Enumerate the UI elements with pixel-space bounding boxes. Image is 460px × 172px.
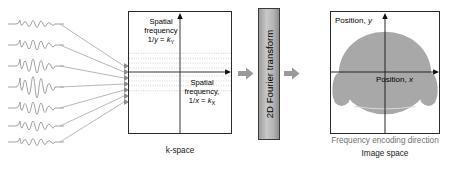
image-y-arrowhead xyxy=(382,13,387,19)
converging-line-5 xyxy=(60,90,124,108)
waveform-4 xyxy=(8,77,64,99)
position-y-label: Position, y xyxy=(335,16,372,25)
position-x-text: Position, xyxy=(376,75,409,84)
arrow-right-icon-right xyxy=(284,67,300,80)
kspace-kx-subscript: X xyxy=(211,100,215,106)
converging-line-4 xyxy=(60,84,124,87)
kspace-ky-eq: = xyxy=(158,35,167,44)
kspace-ky-subscript: Y xyxy=(170,39,174,45)
kspace-kx-line2: frequency, xyxy=(185,87,220,96)
image-space-caption: Image space xyxy=(330,149,440,158)
waveform-5 xyxy=(8,102,64,115)
waveform-1 xyxy=(8,20,64,28)
kspace-caption: k-space xyxy=(128,146,232,155)
image-x-arrowhead xyxy=(433,69,439,75)
kspace-ky-line1: Spatial xyxy=(149,17,172,26)
diagram-canvas: Spatial frequency 1/y = kY Spatial frequ… xyxy=(0,0,460,172)
position-x-var: x xyxy=(409,75,413,84)
waveform-7 xyxy=(8,138,64,146)
waveform-6 xyxy=(8,121,64,131)
position-y-text: Position, xyxy=(335,16,368,25)
kspace-ky-label: Spatial frequency 1/y = kY xyxy=(133,17,189,47)
converging-line-1 xyxy=(60,24,124,66)
converging-line-6 xyxy=(60,96,124,126)
waveform-2 xyxy=(8,40,64,50)
waveform-3 xyxy=(8,59,64,73)
phase-encoding-direction-label: Phase encoding direction xyxy=(299,0,313,12)
kspace-kx-label: Spatial frequency, 1/x = kX xyxy=(173,78,231,108)
kspace-panel: Spatial frequency 1/y = kY Spatial frequ… xyxy=(128,11,232,134)
arrow-right-icon-left xyxy=(238,67,254,80)
converging-line-7 xyxy=(60,102,124,142)
image-space-panel: Position, y Position, x xyxy=(330,11,440,134)
kspace-ky-line2: frequency xyxy=(144,26,177,35)
frequency-encoding-direction-label: Frequency encoding direction xyxy=(318,136,452,145)
position-y-var: y xyxy=(368,16,372,25)
kspace-kx-eq: = xyxy=(199,96,208,105)
position-x-label: Position, x xyxy=(376,75,413,84)
image-space-axes xyxy=(331,12,439,133)
fourier-transform-label: 2D Fourier transform xyxy=(264,30,275,119)
fourier-transform-block: 2D Fourier transform xyxy=(258,8,280,140)
kspace-x-arrowhead xyxy=(225,69,231,75)
kspace-kx-line1: Spatial xyxy=(190,78,213,87)
converging-lines-group xyxy=(60,8,130,148)
